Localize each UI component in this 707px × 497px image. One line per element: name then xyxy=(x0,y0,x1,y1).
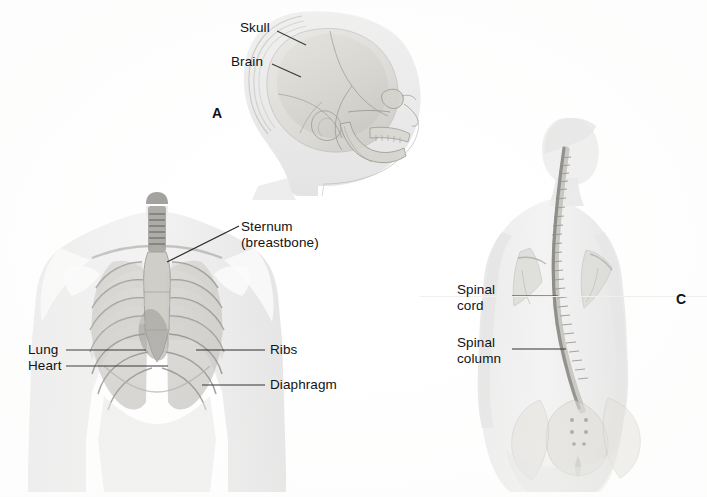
label-sternum-line1: Sternum xyxy=(241,219,293,235)
label-heart: Heart xyxy=(28,358,62,374)
panel-letter-a: A xyxy=(212,105,222,121)
label-brain: Brain xyxy=(231,54,263,70)
label-ribs: Ribs xyxy=(270,342,297,358)
label-spinal-column-line2: column xyxy=(457,351,501,367)
label-skull: Skull xyxy=(240,20,270,36)
anatomy-illustration xyxy=(0,0,707,497)
label-spinal-cord-line1: Spinal xyxy=(457,282,495,298)
figure-canvas: Skull Brain A Sternum (breastbone) Lung … xyxy=(0,0,707,497)
label-sternum-line2: (breastbone) xyxy=(241,235,319,251)
label-spinal-column-line1: Spinal xyxy=(457,335,495,351)
panel-letter-c: C xyxy=(676,291,686,307)
label-diaphragm: Diaphragm xyxy=(270,377,337,393)
label-spinal-cord-line2: cord xyxy=(457,298,484,314)
label-lung: Lung xyxy=(28,342,58,358)
